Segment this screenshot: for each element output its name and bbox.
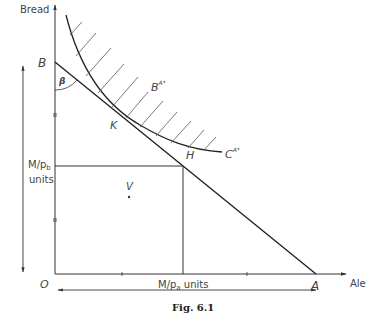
point-v-label: V <box>126 182 133 192</box>
x-axis-label: Ale <box>350 279 366 289</box>
point-k-label: K <box>110 120 117 131</box>
indifference-curve <box>66 15 222 152</box>
point-v <box>128 196 130 198</box>
curve-c-label: CA* <box>225 147 240 160</box>
hatch-marks <box>70 22 216 150</box>
point-h-label: H <box>186 150 194 161</box>
figure-caption: Fig. 6.1 <box>172 303 214 313</box>
origin-label: O <box>40 279 49 290</box>
vertical-budget-label: M/pb <box>28 160 51 172</box>
vertical-units-label: units <box>29 175 54 185</box>
y-axis-label: Bread <box>20 5 49 15</box>
curve-b-label: BA* <box>151 80 166 93</box>
point-a-label: A <box>311 280 319 292</box>
point-b-label: B <box>38 57 46 69</box>
horizontal-budget-label: M/pa units <box>158 280 208 292</box>
angle-beta-label: β <box>59 77 65 86</box>
budget-line <box>55 62 316 274</box>
